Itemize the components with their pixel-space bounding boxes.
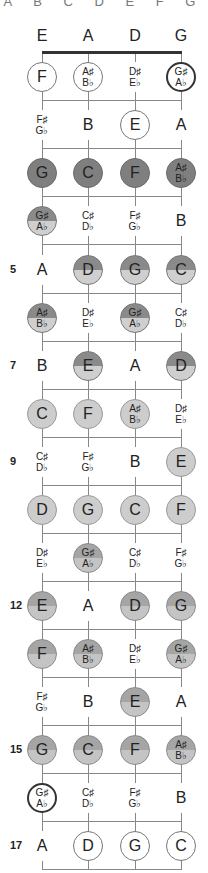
- fret-note: G♯A♭: [166, 639, 196, 669]
- note-name: G: [175, 598, 187, 614]
- fret-note: A♯B♭: [166, 735, 196, 765]
- fret-note: A♯B♭: [73, 62, 103, 92]
- flat-name: B♭: [175, 173, 187, 184]
- open-string-note: E: [27, 21, 57, 51]
- note-name: A: [83, 598, 94, 614]
- fret-note: G: [27, 158, 57, 188]
- fret-note: B: [166, 206, 196, 236]
- note-name: F: [176, 502, 186, 518]
- flat-name: E♭: [175, 414, 187, 425]
- note-name: E: [130, 117, 141, 133]
- fret-note: A: [73, 591, 103, 621]
- sharp-name: G♯: [175, 66, 188, 77]
- sharp-name: F♯: [82, 451, 93, 462]
- fret-note: D: [27, 495, 57, 525]
- sharp-name: D♯: [175, 403, 187, 414]
- sharp-name: A♯: [36, 307, 48, 318]
- sharp-name: F♯: [36, 691, 47, 702]
- fret-line: [42, 821, 182, 822]
- fret-line: [42, 341, 182, 342]
- note-name: C: [82, 165, 94, 181]
- fret-note: G♯A♭: [73, 543, 103, 573]
- sharp-name: A♯: [129, 403, 141, 414]
- note-name: B: [176, 790, 187, 806]
- fret-number: 7: [10, 359, 28, 371]
- fret-line: [42, 437, 182, 438]
- fret-note: F: [120, 735, 150, 765]
- flat-name: B♭: [175, 750, 187, 761]
- fretboard-diagram: A B C D E F G EADGFA♯B♭D♯E♭G♯A♭F♯G♭BEAGC…: [0, 0, 208, 873]
- fret-note: A♯B♭: [120, 399, 150, 429]
- sharp-name: C♯: [175, 307, 187, 318]
- fret-line: [42, 485, 182, 486]
- note-name: E: [83, 358, 94, 374]
- fret-note: A: [120, 351, 150, 381]
- fret-note: C: [73, 158, 103, 188]
- fret-number: 15: [10, 743, 28, 755]
- fret-line: [42, 773, 182, 774]
- note-name: D: [82, 262, 94, 278]
- flat-name: B♭: [82, 77, 94, 88]
- fret-number: 12: [10, 599, 28, 611]
- open-string-note: G: [166, 21, 196, 51]
- fret-line: [42, 677, 182, 678]
- fret-line: [42, 581, 182, 582]
- note-name: C: [175, 262, 187, 278]
- note-name: G: [36, 742, 48, 758]
- fret-line: [42, 148, 182, 149]
- fret-note: G♯A♭: [166, 62, 196, 92]
- note-name: A: [130, 358, 141, 374]
- fret-note: D: [73, 255, 103, 285]
- fret-line: [42, 533, 182, 534]
- note-name: B: [176, 213, 187, 229]
- fret-note: D♯E♭: [73, 303, 103, 333]
- note-name: G: [36, 165, 48, 181]
- flat-name: D♭: [175, 318, 187, 329]
- fret-note: C♯D♭: [27, 447, 57, 477]
- flat-name: E♭: [36, 558, 48, 569]
- fret-note: A: [166, 110, 196, 140]
- fret-note: D♯E♭: [120, 62, 150, 92]
- fret-note: E: [120, 687, 150, 717]
- fret-line: [42, 196, 182, 197]
- flat-name: A♭: [36, 798, 48, 809]
- fret-note: G: [166, 591, 196, 621]
- flat-name: D♭: [129, 558, 141, 569]
- sharp-name: G♯: [82, 547, 95, 558]
- sharp-name: A♯: [82, 66, 94, 77]
- note-name: D: [129, 598, 141, 614]
- note-name: D: [36, 502, 48, 518]
- note-name: F: [130, 165, 140, 181]
- note-name: D: [175, 358, 187, 374]
- fret-note: C: [27, 399, 57, 429]
- fret-note: D♯E♭: [27, 543, 57, 573]
- fret-note: C: [166, 255, 196, 285]
- sharp-name: G♯: [36, 210, 49, 221]
- fret-note: F♯G♭: [120, 206, 150, 236]
- sharp-name: C♯: [129, 547, 141, 558]
- sharp-name: G♯: [175, 643, 188, 654]
- flat-name: D♭: [82, 798, 94, 809]
- fret-note: F♯G♭: [73, 447, 103, 477]
- fret-note: C: [73, 735, 103, 765]
- fret-note: B: [120, 447, 150, 477]
- fret-note: G♯A♭: [120, 303, 150, 333]
- fret-note: A♯B♭: [73, 639, 103, 669]
- flat-name: D♭: [36, 462, 48, 473]
- sharp-name: D♯: [82, 307, 94, 318]
- fret-note: E: [166, 447, 196, 477]
- flat-name: G♭: [129, 221, 142, 232]
- fret-note: A: [166, 687, 196, 717]
- sharp-name: F♯: [129, 787, 140, 798]
- note-name: D: [82, 838, 94, 854]
- fret-note: A♯B♭: [166, 158, 196, 188]
- note-name: A: [176, 694, 187, 710]
- sharp-name: C♯: [36, 451, 48, 462]
- note-name: G: [129, 838, 141, 854]
- note-name: D: [129, 28, 141, 44]
- fret-number: 9: [10, 455, 28, 467]
- fret-note: F♯G♭: [27, 110, 57, 140]
- fret-number: 5: [10, 263, 28, 275]
- fret-line: [42, 293, 182, 294]
- note-name: B: [37, 358, 48, 374]
